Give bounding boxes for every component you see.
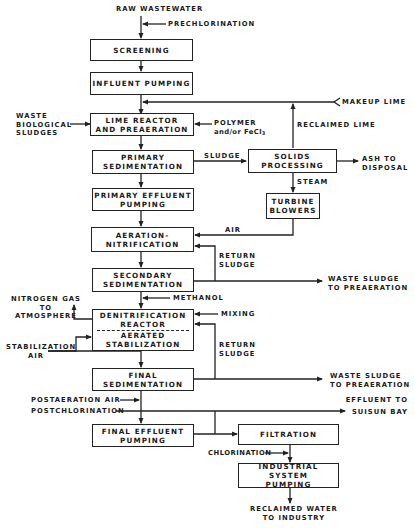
- ash-line1: ASH TO: [362, 155, 408, 164]
- rs1-line1: RETURN: [219, 252, 256, 261]
- dr-line2: REACTOR: [120, 320, 166, 329]
- wbs-line2: BIOLOGICAL: [16, 121, 72, 130]
- polymer-label: POLYMER and/or FeCl3: [214, 119, 266, 137]
- return-sludge-1-label: RETURN SLUDGE: [219, 252, 256, 269]
- secondary-sedimentation-box: SECONDARY SEDIMENTATION: [92, 268, 194, 292]
- stabilization-air-label: STABILIZATION AIR: [6, 343, 72, 360]
- ng-line2: TO: [11, 304, 81, 313]
- return-sludge-2-label: RETURN SLUDGE: [219, 341, 256, 358]
- pep-line2: PUMPING: [120, 200, 166, 209]
- methanol-label: METHANOL: [173, 294, 224, 303]
- final-effluent-pumping-box: FINAL EFFLUENT PUMPING: [92, 424, 194, 447]
- rw-line1: RECLAIMED WATER: [250, 505, 338, 514]
- sa-line1: STABILIZATION: [6, 343, 72, 352]
- effluent-to-bay-label: EFFLUENT TO SUISUN BAY: [340, 396, 408, 416]
- ash-label: ASH TO DISPOSAL: [362, 155, 408, 172]
- rs2-line2: SLUDGE: [219, 350, 256, 359]
- lime-reactor-line1: LIME REACTOR: [106, 116, 179, 125]
- fs-line2: SEDIMENTATION: [103, 380, 183, 389]
- wbs-line1: WASTE: [16, 112, 72, 121]
- denitrification-reactor: DENITRIFICATION REACTOR: [93, 310, 193, 330]
- nitrogen-gas-label: NITROGEN GAS TO ATMOSPHERE: [11, 295, 81, 321]
- etb-line1: EFFLUENT TO: [340, 396, 408, 405]
- postchlorination-label: POSTCHLORINATION: [31, 407, 125, 416]
- influent-pumping-box: INFLUENT PUMPING: [90, 72, 193, 95]
- waste-sludge-2-label: WASTE SLUDGE TO PREAERATION: [330, 372, 410, 389]
- final-sedimentation-box: FINAL SEDIMENTATION: [92, 368, 194, 391]
- wbs-line3: SLUDGES: [16, 129, 72, 138]
- pep-line1: PRIMARY EFFLUENT: [94, 191, 191, 200]
- polymer-alt: and/or FeCl: [214, 128, 262, 136]
- ws1-line2: TO PREAERATION: [328, 284, 408, 293]
- reclaimed-lime-label: RECLAIMED LIME: [297, 121, 376, 130]
- fs-line1: FINAL: [128, 371, 157, 380]
- ss-line1: SECONDARY: [113, 271, 172, 280]
- ng-line1: NITROGEN GAS: [11, 295, 81, 304]
- tb-line2: BLOWERS: [269, 206, 316, 215]
- etb-line2: SUISUN BAY: [340, 408, 408, 417]
- lime-reactor-line2: AND PREAERATION: [96, 125, 189, 134]
- sp-line1: SOLIDS: [274, 152, 310, 161]
- as-line1: AERATED: [121, 331, 166, 340]
- makeup-lime-label: MAKEUP LIME: [342, 98, 406, 107]
- isp-line1: INDUSTRIAL SYSTEM: [239, 462, 338, 480]
- industrial-system-pumping-box: INDUSTRIAL SYSTEM PUMPING: [238, 463, 339, 488]
- prechlorination-label: PRECHLORINATION: [168, 20, 255, 29]
- denitrification-box: DENITRIFICATION REACTOR AERATED STABILIZ…: [92, 309, 194, 351]
- ash-line2: DISPOSAL: [362, 164, 408, 173]
- reclaimed-water-label: RECLAIMED WATER TO INDUSTRY: [250, 505, 338, 522]
- dr-line1: DENITRIFICATION: [100, 311, 187, 320]
- an-line2: NITRIFICATION: [106, 240, 180, 249]
- aeration-nitrification-box: AERATION- NITRIFICATION: [91, 227, 194, 252]
- sludge-label: SLUDGE: [204, 152, 240, 161]
- ng-line3: ATMOSPHERE: [11, 312, 81, 321]
- sp-line2: PROCESSING: [261, 161, 324, 170]
- polymer-line1: POLYMER: [214, 119, 266, 128]
- primary-sedimentation-box: PRIMARY SEDIMENTATION: [92, 150, 194, 174]
- screening-box: SCREENING: [90, 39, 193, 61]
- ws2-line2: TO PREAERATION: [330, 381, 410, 390]
- waste-sludge-1-label: WASTE SLUDGE TO PREAERATION: [328, 275, 408, 292]
- waste-bio-sludges-label: WASTE BIOLOGICAL SLUDGES: [16, 112, 72, 138]
- rs1-line2: SLUDGE: [219, 261, 256, 270]
- ws1-line1: WASTE SLUDGE: [328, 275, 408, 284]
- as-line2: STABILIZATION: [106, 340, 181, 349]
- raw-wastewater-label: RAW WASTEWATER: [116, 5, 203, 14]
- solids-processing-box: SOLIDS PROCESSING: [248, 149, 337, 173]
- lime-reactor-box: LIME REACTOR AND PREAERATION: [90, 113, 194, 136]
- fep-line2: PUMPING: [120, 436, 166, 445]
- influent-pumping-label: INFLUENT PUMPING: [93, 79, 191, 88]
- primary-sed-line2: SEDIMENTATION: [103, 162, 183, 171]
- flow-lines: [0, 0, 414, 529]
- polymer-line2: and/or FeCl3: [214, 128, 266, 138]
- screening-label: SCREENING: [113, 46, 169, 55]
- primary-effluent-pumping-box: PRIMARY EFFLUENT PUMPING: [92, 188, 194, 211]
- sa-line2: AIR: [6, 352, 44, 361]
- postaeration-air-label: POSTAERATION AIR: [31, 396, 121, 405]
- aerated-stabilization: AERATED STABILIZATION: [93, 331, 193, 351]
- an-line1: AERATION-: [116, 231, 170, 240]
- rs2-line1: RETURN: [219, 341, 256, 350]
- air-label: AIR: [225, 226, 241, 235]
- turbine-blowers-box: TURBINE BLOWERS: [266, 193, 320, 219]
- chlorination-label: CHLORINATION: [208, 449, 271, 458]
- isp-line2: PUMPING: [266, 480, 312, 489]
- filtration-box: FILTRATION: [238, 424, 339, 445]
- rw-line2: TO INDUSTRY: [250, 514, 338, 523]
- steam-label: STEAM: [297, 178, 328, 187]
- filtration-label: FILTRATION: [260, 430, 317, 439]
- polymer-sub: 3: [262, 130, 266, 136]
- ws2-line1: WASTE SLUDGE: [330, 372, 410, 381]
- fep-line1: FINAL EFFLUENT: [102, 427, 184, 436]
- ss-line2: SEDIMENTATION: [103, 280, 183, 289]
- tb-line1: TURBINE: [271, 197, 314, 206]
- mixing-label: MIXING: [221, 310, 255, 319]
- primary-sed-line1: PRIMARY: [121, 153, 165, 162]
